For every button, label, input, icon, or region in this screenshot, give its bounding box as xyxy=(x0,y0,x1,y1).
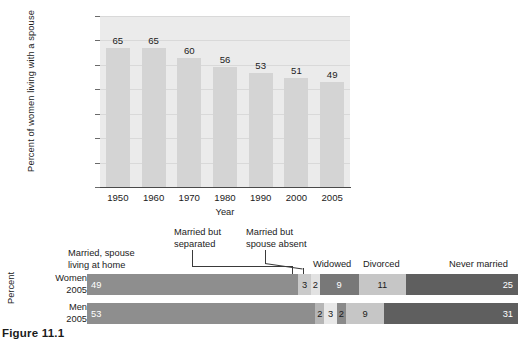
segment-value-never-married: 25 xyxy=(503,280,513,290)
stack-row-label-line2: 2005 xyxy=(66,314,87,324)
top-bar-chart: Percent of women living with a spouse 01… xyxy=(0,0,530,228)
bar-value-label: 56 xyxy=(210,54,240,65)
callout-married-spouse-absent: Married but spouse absent xyxy=(246,227,306,250)
bar xyxy=(142,48,166,187)
x-tick-label: 2005 xyxy=(312,192,352,203)
leader-line-separated-vertical xyxy=(192,250,193,267)
y-tick-mark xyxy=(95,138,100,139)
bar xyxy=(284,78,308,187)
stacked-bar: 53232931 xyxy=(87,303,518,324)
bar xyxy=(213,67,237,187)
bar-value-label: 60 xyxy=(174,45,204,56)
segment-value-married-separated: 2 xyxy=(315,309,324,319)
callout-divorced: Divorced xyxy=(363,259,400,271)
x-axis-title: Year xyxy=(100,207,350,217)
segment-value-widowed: 2 xyxy=(337,309,346,319)
stack-row-label: Women2005 xyxy=(25,273,87,296)
x-tick-label: 1970 xyxy=(169,192,209,203)
segment-never-married: 31 xyxy=(384,303,518,324)
bar-value-label: 65 xyxy=(103,35,133,46)
x-tick-label: 1990 xyxy=(241,192,281,203)
segment-married-spouse-home: 49 xyxy=(87,274,298,295)
stack-row-label: Men2005 xyxy=(25,302,87,325)
bar-value-label: 53 xyxy=(246,60,276,71)
stacked-bar-chart: Percent Married, spouse living at home M… xyxy=(0,228,530,340)
percent-axis-title: Percent xyxy=(6,260,16,316)
leader-line-absent-vertical xyxy=(265,250,266,264)
bar xyxy=(249,73,273,187)
figure-caption: Figure 11.1 xyxy=(2,327,64,339)
y-axis-title: Percent of women living with a spouse xyxy=(26,0,36,186)
leader-line-separated-horizontal xyxy=(192,266,293,267)
segment-value-divorced: 9 xyxy=(346,309,385,319)
callout-never-married: Never married xyxy=(449,259,508,271)
callout-married-spouse-home: Married, spouse living at home xyxy=(68,248,135,271)
y-tick-mark xyxy=(95,65,100,66)
stack-row-label-line2: 2005 xyxy=(66,285,87,295)
y-tick-mark xyxy=(95,163,100,164)
stack-row-label-line1: Men xyxy=(69,302,87,312)
bar-value-label: 51 xyxy=(281,65,311,76)
segment-married-spouse-absent: 3 xyxy=(324,303,337,324)
segment-value-divorced: 11 xyxy=(359,280,406,290)
segment-value-married-spouse-home: 49 xyxy=(91,280,101,290)
y-tick-mark xyxy=(95,114,100,115)
stacked-bar: 493291125 xyxy=(87,274,518,295)
y-tick-mark xyxy=(95,16,100,17)
segment-value-widowed: 9 xyxy=(320,280,359,290)
segment-divorced: 11 xyxy=(359,274,406,295)
segment-value-married-separated: 3 xyxy=(298,280,311,290)
gridline xyxy=(100,16,350,17)
segment-married-separated: 2 xyxy=(315,303,324,324)
segment-value-married-spouse-home: 53 xyxy=(91,309,101,319)
segment-widowed: 2 xyxy=(337,303,346,324)
y-tick-mark xyxy=(95,89,100,90)
segment-married-separated: 3 xyxy=(298,274,311,295)
stack-row-label-line1: Women xyxy=(55,273,87,283)
segment-married-spouse-home: 53 xyxy=(87,303,315,324)
segment-value-married-spouse-absent: 3 xyxy=(324,309,337,319)
x-tick-label: 1960 xyxy=(134,192,174,203)
bar xyxy=(106,48,130,187)
segment-value-married-spouse-absent: 2 xyxy=(311,280,320,290)
x-tick-label: 1980 xyxy=(205,192,245,203)
segment-widowed: 9 xyxy=(320,274,359,295)
bar xyxy=(320,82,344,187)
y-tick-mark xyxy=(95,187,100,188)
segment-married-spouse-absent: 2 xyxy=(311,274,320,295)
bar xyxy=(177,58,201,187)
segment-value-never-married: 31 xyxy=(503,309,513,319)
bar-value-label: 65 xyxy=(139,35,169,46)
segment-never-married: 25 xyxy=(406,274,518,295)
x-axis-line xyxy=(100,187,351,188)
callout-married-separated: Married but separated xyxy=(174,227,221,250)
callout-widowed: Widowed xyxy=(313,259,351,271)
gridline xyxy=(100,40,350,41)
segment-divorced: 9 xyxy=(346,303,385,324)
x-tick-label: 2000 xyxy=(276,192,316,203)
x-tick-label: 1950 xyxy=(98,192,138,203)
bar-value-label: 49 xyxy=(317,69,347,80)
y-tick-mark xyxy=(95,40,100,41)
